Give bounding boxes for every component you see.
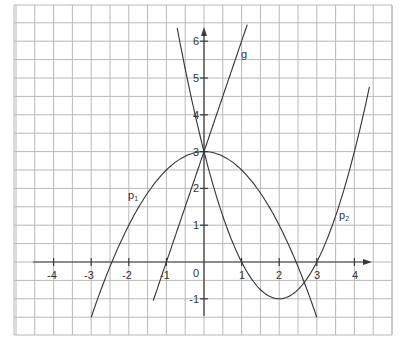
y-axis-arrow-icon [201,27,207,36]
x-axis-arrow-icon [363,259,372,265]
function-graph: -4 -3 -2 -1 0 1 2 3 4 -1 1 2 3 4 5 6 p1 … [0,0,403,349]
label-g: g [241,48,247,60]
label-p1: p1 [128,189,138,202]
curve-p2 [177,28,369,299]
y-tick-label: -1 [189,293,199,305]
x-tick-label: 1 [239,269,245,281]
label-p2: p2 [339,209,349,222]
grid [14,5,392,335]
y-tick-label: 5 [193,72,199,84]
origin-label: 0 [193,267,199,279]
x-tick-label: -3 [84,269,94,281]
y-tick-label: 6 [193,35,199,47]
x-tick-label: -2 [122,269,132,281]
y-tick-label: 1 [193,219,199,231]
y-tick-label: 2 [193,182,199,194]
curves [91,25,369,318]
x-tick-label: 2 [276,269,282,281]
x-tick-label: 4 [352,269,358,281]
x-tick-label: -4 [47,269,57,281]
x-tick-label: 3 [314,269,320,281]
curve-labels: p1 p2 g [128,48,349,222]
